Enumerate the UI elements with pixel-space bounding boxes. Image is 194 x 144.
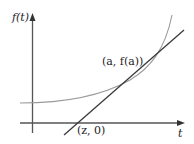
y-axis-label: f(t)	[11, 11, 29, 24]
function-curve	[20, 15, 172, 103]
tangent-point-label: (a, f(a))	[102, 55, 143, 68]
y-axis-arrow-icon	[30, 13, 36, 21]
tangent-diagram: f(t) t (a, f(a)) (z, 0)	[0, 0, 194, 144]
x-axis-label: t	[178, 127, 183, 140]
x-axis-arrow-icon	[177, 120, 185, 126]
root-point-label: (z, 0)	[77, 124, 105, 137]
tangent-line	[64, 30, 184, 135]
